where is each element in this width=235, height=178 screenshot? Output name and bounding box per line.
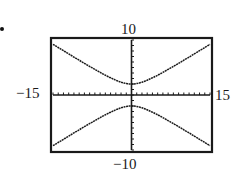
graph-window — [0, 0, 235, 178]
axes — [53, 40, 210, 150]
